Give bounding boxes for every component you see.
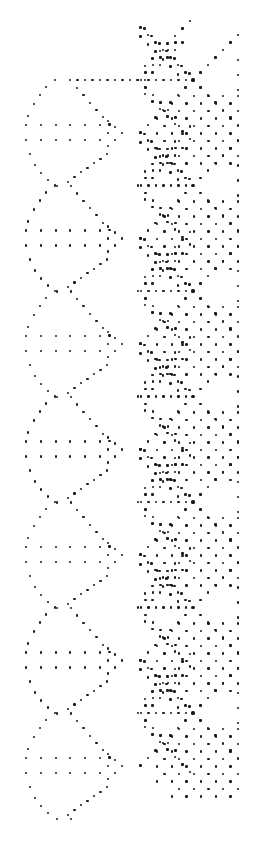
pricking-dot <box>178 245 180 247</box>
pricking-dot <box>222 456 224 458</box>
pricking-dot <box>139 457 142 460</box>
pricking-dot <box>185 584 187 586</box>
pricking-dot <box>152 697 154 699</box>
pricking-dot <box>163 140 165 142</box>
pricking-dot <box>214 478 216 480</box>
pricking-dot <box>185 253 187 255</box>
pricking-dot <box>185 645 187 647</box>
pricking-dot <box>29 364 32 367</box>
pricking-dot <box>73 281 75 283</box>
pricking-dot <box>207 621 209 623</box>
pricking-dot <box>178 652 180 654</box>
pricking-dot <box>162 365 164 367</box>
pricking-dot <box>237 601 239 603</box>
pricking-dot <box>27 642 30 645</box>
pricking-dot <box>163 230 165 232</box>
pricking-dot <box>229 373 231 375</box>
pricking-dot <box>154 674 156 676</box>
pricking-dot <box>67 603 69 605</box>
pricking-dot <box>181 674 184 677</box>
pricking-dot <box>170 501 173 504</box>
pricking-dot <box>237 34 239 36</box>
pricking-dot <box>178 637 180 639</box>
pricking-dot <box>144 599 146 601</box>
pricking-dot <box>207 380 209 382</box>
pricking-dot <box>229 479 231 481</box>
pricking-dot <box>200 584 202 586</box>
pricking-dot <box>152 380 154 382</box>
pricking-dot <box>207 637 209 639</box>
pricking-dot <box>177 73 180 76</box>
pricking-dot <box>222 245 224 247</box>
pricking-dot <box>151 374 153 376</box>
pricking-dot <box>207 758 209 760</box>
pricking-dot <box>237 637 239 639</box>
pricking-dot <box>207 245 209 247</box>
pricking-dot <box>215 569 217 571</box>
pricking-dot <box>171 358 173 360</box>
pricking-dot <box>144 192 146 194</box>
pricking-dot <box>162 184 165 187</box>
pricking-dot <box>229 765 231 767</box>
pricking-dot <box>188 600 191 603</box>
pricking-dot <box>93 690 95 692</box>
pricking-dot <box>162 606 165 609</box>
pricking-dot <box>147 148 150 151</box>
pricking-dot <box>174 756 176 758</box>
pricking-dot <box>99 757 101 759</box>
pricking-dot <box>200 750 202 752</box>
pricking-dot <box>40 383 43 386</box>
pricking-dot <box>178 336 180 338</box>
pricking-dot <box>137 79 139 81</box>
pricking-dot <box>207 788 209 790</box>
pricking-dot <box>40 666 42 668</box>
pricking-dot <box>174 327 176 329</box>
pricking-dot <box>45 297 48 300</box>
pricking-dot <box>237 260 239 262</box>
pricking-dot <box>237 481 239 483</box>
pricking-dot <box>222 200 224 202</box>
pricking-dot <box>147 184 150 187</box>
pricking-dot <box>143 344 146 347</box>
pricking-dot <box>99 666 101 668</box>
pricking-dot <box>215 147 217 149</box>
pricking-dot <box>140 79 143 82</box>
pricking-dot <box>159 635 161 637</box>
pricking-dot <box>144 65 146 67</box>
pricking-dot <box>106 469 108 471</box>
pricking-dot <box>166 537 168 539</box>
pricking-dot <box>80 171 82 173</box>
pricking-dot <box>171 645 173 647</box>
pricking-dot <box>166 221 168 223</box>
pricking-dot <box>237 95 239 97</box>
pricking-dot <box>185 208 187 210</box>
pricking-dot <box>166 689 169 692</box>
pricking-dot <box>114 653 116 655</box>
pricking-dot <box>199 86 201 88</box>
pricking-dot <box>185 147 187 149</box>
pricking-dot <box>178 547 180 549</box>
pricking-dot <box>229 252 231 254</box>
pricking-dot <box>121 765 123 767</box>
pricking-dot <box>207 486 209 488</box>
pricking-dot <box>45 613 48 616</box>
pricking-dot <box>237 577 239 579</box>
pricking-dot <box>229 660 231 662</box>
pricking-dot <box>178 230 180 232</box>
pricking-dot <box>40 277 43 280</box>
pricking-dot <box>181 555 183 557</box>
pricking-dot <box>147 465 150 468</box>
pricking-dot <box>178 95 180 97</box>
pricking-dot <box>129 79 131 81</box>
pricking-dot <box>200 449 202 451</box>
pricking-dot <box>215 765 217 767</box>
pricking-dot <box>193 351 195 353</box>
pricking-dot <box>177 169 179 171</box>
pricking-dot <box>178 426 180 428</box>
pricking-dot <box>93 373 95 375</box>
pricking-dot <box>156 780 158 782</box>
pricking-dot <box>188 389 191 392</box>
pricking-dot <box>140 184 143 187</box>
pricking-dot <box>229 463 231 465</box>
pricking-dot <box>180 170 183 173</box>
